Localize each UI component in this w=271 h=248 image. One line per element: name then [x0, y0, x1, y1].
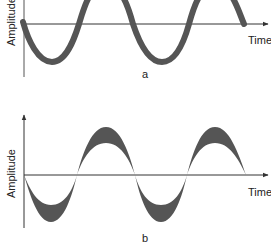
sine-wave-a — [23, 0, 244, 62]
wave-b-peak-2 — [187, 127, 246, 175]
x-axis-label-b: Time — [248, 186, 271, 198]
caption-a: a — [142, 68, 149, 80]
x-axis-label-a: Time — [248, 34, 271, 46]
wave-b-peak-1 — [77, 127, 135, 175]
wave-b-trough-2 — [135, 175, 187, 222]
diagram-a: Time a Amplitude — [5, 0, 271, 80]
caption-b: b — [142, 232, 148, 244]
wave-b-trough-1 — [24, 175, 77, 222]
y-axis-label-b: Amplitude — [5, 149, 17, 198]
diagram-b: Time b Amplitude — [5, 115, 271, 244]
y-axis-label-a: Amplitude — [5, 0, 17, 46]
waveform-figure: Time a Amplitude Time b Amplitude — [0, 0, 271, 248]
